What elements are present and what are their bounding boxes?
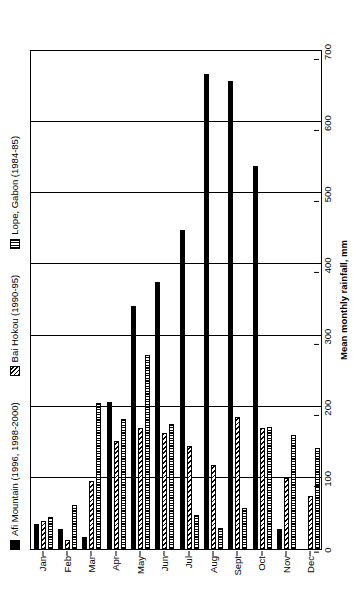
bar-mar-lope, bbox=[96, 403, 101, 549]
month-group-oct bbox=[250, 51, 274, 549]
bar-apr-afi bbox=[107, 402, 112, 549]
value-axis-title: Mean monthly rainfall, mm bbox=[338, 50, 349, 550]
tick-mark bbox=[314, 59, 319, 60]
bar-jul-lope, bbox=[194, 515, 199, 549]
tick-mark bbox=[314, 344, 319, 345]
month-tick-jan: Jan bbox=[37, 556, 48, 594]
value-tick-0: 0 bbox=[322, 547, 333, 552]
tick-mark bbox=[115, 551, 116, 556]
tick-mark bbox=[314, 201, 319, 202]
tick-mark bbox=[237, 551, 238, 556]
month-tick-dec: Dec bbox=[304, 556, 315, 594]
month-tick-feb: Feb bbox=[61, 556, 72, 594]
bar-jul-afi bbox=[180, 230, 185, 549]
tick-mark bbox=[314, 130, 319, 131]
value-tick-600: 600 bbox=[322, 115, 333, 131]
bar-sept-lope, bbox=[242, 508, 247, 549]
month-tick-nov: Nov bbox=[280, 556, 291, 594]
bar-feb-bai bbox=[65, 540, 70, 549]
tick-mark bbox=[314, 272, 319, 273]
value-tick-400: 400 bbox=[322, 258, 333, 274]
bar-nov-afi bbox=[277, 529, 282, 549]
legend-item-0: Afi Mountain (1996, 1998-2000) bbox=[10, 402, 20, 550]
bar-aug-bai bbox=[211, 465, 216, 549]
legend-item-label: Lope, Gabon (1984-85) bbox=[10, 136, 20, 235]
bar-mar-bai bbox=[89, 481, 94, 549]
tick-mark bbox=[164, 551, 165, 556]
bar-may-bai bbox=[138, 428, 143, 549]
bar-mar-afi bbox=[82, 537, 87, 549]
bar-may-lope, bbox=[145, 356, 150, 550]
tick-mark bbox=[261, 551, 262, 556]
bar-apr-bai bbox=[114, 441, 119, 549]
value-tick-200: 200 bbox=[322, 400, 333, 416]
bar-jun-afi bbox=[155, 282, 160, 549]
month-tick-jun: Jun bbox=[158, 556, 169, 594]
bar-feb-afi bbox=[58, 529, 63, 549]
legend-item-label: Afi Mountain (1996, 1998-2000) bbox=[10, 402, 20, 536]
month-axis-ticks: 0100200300400500600700 bbox=[322, 50, 336, 550]
tick-mark bbox=[91, 551, 92, 556]
bar-dec-lope, bbox=[315, 448, 320, 549]
bar-aug-afi bbox=[204, 74, 209, 549]
month-group-jul bbox=[177, 51, 201, 549]
tick-mark bbox=[314, 552, 319, 553]
bar-dec-bai bbox=[308, 496, 313, 549]
month-group-apr bbox=[104, 51, 128, 549]
bar-oct-afi bbox=[253, 166, 258, 549]
month-group-dec bbox=[299, 51, 323, 549]
tick-mark bbox=[188, 551, 189, 556]
bar-oct-bai bbox=[260, 428, 265, 549]
bar-jul-bai bbox=[187, 446, 192, 549]
plot-area bbox=[30, 50, 322, 550]
rotated-figure-wrapper: Afi Mountain (1996, 1998-2000)Bai Hokou … bbox=[0, 0, 360, 594]
tick-mark bbox=[42, 551, 43, 556]
month-tick-sept: Sept bbox=[231, 556, 242, 594]
rainfall-chart-figure: Afi Mountain (1996, 1998-2000)Bai Hokou … bbox=[0, 0, 360, 594]
bar-nov-bai bbox=[284, 478, 289, 549]
tick-mark bbox=[140, 551, 141, 556]
legend-item-2: Lope, Gabon (1984-85) bbox=[10, 136, 20, 249]
solid-square-icon bbox=[10, 540, 20, 550]
legend-item-label: Bai Hokou (1990-95) bbox=[10, 275, 20, 363]
chart-legend: Afi Mountain (1996, 1998-2000)Bai Hokou … bbox=[6, 10, 24, 550]
bar-oct-lope, bbox=[267, 427, 272, 549]
diagonal-hatch-square-icon bbox=[10, 366, 20, 376]
tick-mark bbox=[67, 551, 68, 556]
tick-mark bbox=[314, 415, 319, 416]
bar-jun-bai bbox=[162, 433, 167, 549]
value-tick-300: 300 bbox=[322, 329, 333, 345]
month-tick-may: May bbox=[134, 556, 145, 594]
month-group-jun bbox=[153, 51, 177, 549]
month-tick-oct: Oct bbox=[256, 556, 267, 594]
value-tick-700: 700 bbox=[322, 44, 333, 60]
bar-jan-bai bbox=[41, 521, 46, 549]
month-group-may bbox=[128, 51, 152, 549]
value-axis-ticks: JanFebMarAprMayJunJulAugSeptOctNovDec bbox=[30, 552, 322, 594]
month-group-feb bbox=[55, 51, 79, 549]
tick-mark bbox=[286, 551, 287, 556]
bar-may-afi bbox=[131, 306, 136, 549]
month-group-jan bbox=[31, 51, 55, 549]
bar-feb-lope, bbox=[72, 505, 77, 549]
tick-mark bbox=[213, 551, 214, 556]
bar-jan-lope, bbox=[48, 517, 53, 549]
value-tick-100: 100 bbox=[322, 471, 333, 487]
vertical-hatch-square-icon bbox=[10, 239, 20, 249]
month-group-sept bbox=[226, 51, 250, 549]
month-group-nov bbox=[274, 51, 298, 549]
bar-jun-lope, bbox=[169, 425, 174, 550]
tick-mark bbox=[310, 551, 311, 556]
month-group-mar bbox=[80, 51, 104, 549]
month-group-aug bbox=[201, 51, 225, 549]
bar-nov-lope, bbox=[291, 435, 296, 549]
bar-aug-lope, bbox=[218, 528, 223, 549]
month-tick-aug: Aug bbox=[207, 556, 218, 594]
bar-sept-afi bbox=[228, 81, 233, 549]
bar-jan-afi bbox=[34, 524, 39, 549]
tick-mark bbox=[314, 486, 319, 487]
month-tick-apr: Apr bbox=[110, 556, 121, 594]
month-tick-jul: Jul bbox=[183, 556, 194, 594]
legend-item-1: Bai Hokou (1990-95) bbox=[10, 275, 20, 377]
value-tick-500: 500 bbox=[322, 186, 333, 202]
